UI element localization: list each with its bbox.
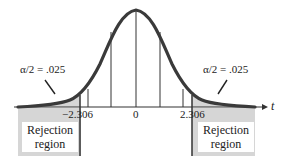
alpha-label-left: α/2 = .025 [20, 64, 65, 75]
axis-arrow-icon [262, 104, 268, 110]
tick-label-pos: 2.306 [180, 109, 205, 120]
tick-label-neg: −2.306 [62, 109, 93, 120]
axis-label-t: t [271, 100, 274, 112]
rej-left-line1: Rejection [24, 123, 76, 137]
alpha-label-right: α/2 = .025 [203, 64, 248, 75]
pointer-left [45, 80, 55, 94]
rej-right-line2: region [200, 137, 252, 151]
rej-right-line1: Rejection [200, 123, 252, 137]
rej-left-line2: region [24, 137, 76, 151]
rejection-region-left-label: Rejection region [22, 122, 78, 152]
tick-label-zero: 0 [133, 109, 139, 120]
pointer-right [218, 80, 227, 94]
rejection-region-right-label: Rejection region [198, 122, 254, 152]
